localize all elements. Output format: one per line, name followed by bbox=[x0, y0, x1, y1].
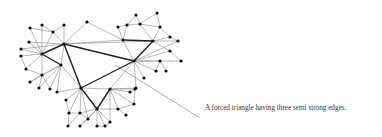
weak-edge bbox=[42, 75, 50, 89]
graph-node bbox=[121, 38, 124, 41]
strong-edge bbox=[123, 40, 153, 41]
graph-node bbox=[24, 67, 27, 70]
graph-node bbox=[154, 69, 157, 72]
graph-node bbox=[132, 59, 135, 62]
graph-node bbox=[67, 111, 70, 114]
graph-node bbox=[62, 42, 65, 45]
weak-edge bbox=[26, 54, 42, 69]
weak-edge bbox=[80, 88, 81, 113]
graph-node bbox=[40, 73, 43, 76]
graph-node bbox=[155, 11, 158, 14]
weak-edge bbox=[69, 88, 81, 113]
weak-edge bbox=[134, 61, 136, 88]
graph-node bbox=[108, 120, 111, 123]
weak-edge bbox=[80, 109, 97, 113]
graph-node bbox=[134, 13, 137, 16]
weak-edge bbox=[21, 54, 42, 56]
weak-edge bbox=[21, 56, 26, 69]
weak-edge bbox=[140, 24, 160, 27]
graph-node bbox=[64, 98, 67, 101]
strong-edge bbox=[42, 54, 61, 65]
weak-edge bbox=[153, 37, 170, 41]
graph-node bbox=[124, 113, 127, 116]
graph-node bbox=[48, 87, 51, 90]
weak-edge bbox=[97, 109, 110, 122]
figure-caption: A forced triangle having three semi stro… bbox=[205, 104, 346, 112]
weak-edge bbox=[42, 65, 61, 75]
weak-edge bbox=[64, 41, 153, 44]
weak-edge bbox=[160, 27, 170, 37]
graph-node bbox=[28, 80, 31, 83]
weak-edge bbox=[68, 113, 69, 126]
graph-node bbox=[103, 124, 106, 127]
graph-node bbox=[132, 102, 135, 105]
graph-node bbox=[142, 76, 145, 79]
graph-node bbox=[116, 107, 119, 110]
network-graph bbox=[0, 0, 382, 137]
graph-node bbox=[27, 40, 30, 43]
weak-edge bbox=[81, 88, 110, 89]
weak-edge bbox=[153, 27, 160, 41]
graph-node bbox=[78, 124, 81, 127]
graph-node bbox=[40, 23, 43, 26]
graph-node bbox=[133, 87, 136, 90]
weak-edge bbox=[68, 113, 80, 126]
graph-node bbox=[125, 23, 128, 26]
weak-edge bbox=[160, 61, 166, 71]
graph-node bbox=[168, 35, 171, 38]
weak-edge bbox=[134, 61, 156, 71]
graph-node bbox=[158, 59, 161, 62]
weak-edge bbox=[57, 88, 81, 92]
weak-edge bbox=[123, 40, 134, 61]
graph-node bbox=[116, 25, 119, 28]
graph-node bbox=[59, 63, 62, 66]
graph-node bbox=[62, 23, 65, 26]
graph-node bbox=[86, 117, 89, 120]
weak-edge bbox=[26, 69, 42, 75]
weak-edge bbox=[140, 13, 157, 24]
weak-edge bbox=[110, 89, 118, 109]
graph-node bbox=[79, 86, 82, 89]
strong-edge bbox=[97, 89, 110, 109]
weak-edge bbox=[110, 89, 130, 92]
weak-edge bbox=[110, 61, 134, 89]
graph-node bbox=[95, 124, 98, 127]
weak-edge bbox=[127, 24, 140, 25]
graph-node bbox=[85, 20, 88, 23]
weak-edge bbox=[140, 24, 153, 41]
graph-node bbox=[40, 52, 43, 55]
weak-edge bbox=[53, 32, 64, 44]
graph-node bbox=[55, 90, 58, 93]
strong-edge bbox=[64, 44, 134, 61]
weak-edge bbox=[127, 15, 136, 25]
graph-node bbox=[78, 111, 81, 114]
weak-edge bbox=[66, 88, 81, 100]
weak-edge bbox=[170, 51, 181, 61]
graph-node bbox=[95, 107, 98, 110]
graph-node bbox=[28, 26, 31, 29]
weak-edge bbox=[156, 61, 160, 71]
graph-node bbox=[179, 59, 182, 62]
graph-node bbox=[51, 30, 54, 33]
weak-edge bbox=[64, 22, 87, 44]
weak-edge bbox=[123, 25, 127, 40]
weak-edge bbox=[64, 40, 123, 44]
strong-edge bbox=[64, 44, 81, 88]
graph-node bbox=[66, 124, 69, 127]
graph-node bbox=[128, 90, 131, 93]
weak-edge bbox=[53, 25, 64, 32]
strong-edge bbox=[81, 61, 134, 88]
graph-node bbox=[19, 54, 22, 57]
weak-edge bbox=[134, 89, 135, 104]
weak-edge bbox=[97, 109, 105, 126]
graph-node bbox=[164, 69, 167, 72]
graph-node bbox=[37, 86, 40, 89]
weak-edge bbox=[29, 42, 64, 44]
weak-edge bbox=[30, 28, 42, 54]
graph-node bbox=[19, 47, 22, 50]
graph-node bbox=[176, 39, 179, 42]
graph-node bbox=[108, 87, 111, 90]
weak-edge bbox=[87, 22, 123, 40]
weak-edge bbox=[61, 65, 81, 88]
graph-node bbox=[151, 39, 154, 42]
